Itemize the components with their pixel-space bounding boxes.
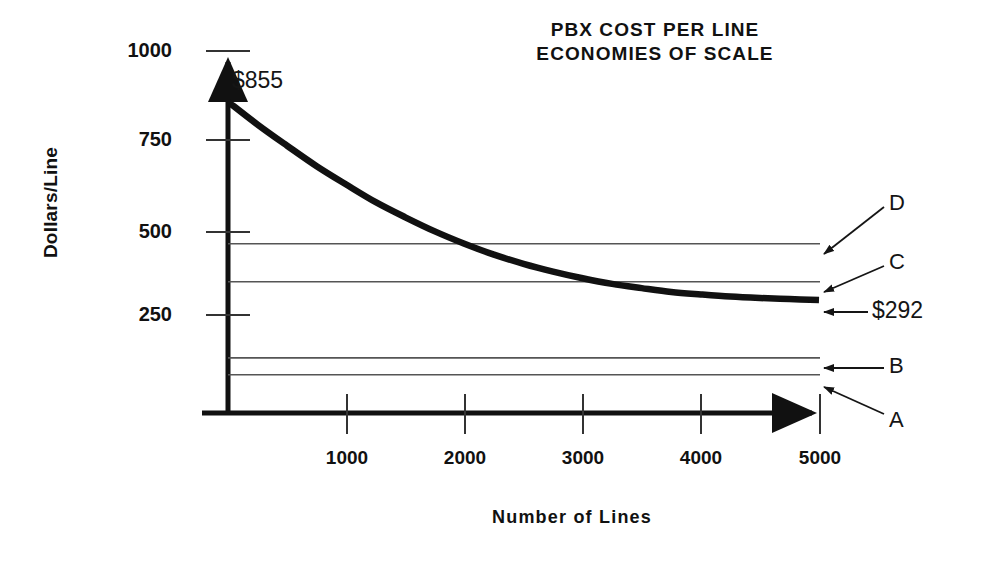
curve-end-value-label: $292 — [872, 299, 923, 322]
x-axis-title: Number of Lines — [422, 508, 722, 526]
annotation-arrow-a — [824, 387, 884, 414]
y-tick-label-1000: 1000 — [86, 40, 172, 60]
chart-title-line-2: ECONOMIES OF SCALE — [536, 43, 773, 64]
annotation-arrow-c — [824, 266, 884, 292]
y-tick-label-250: 250 — [86, 304, 172, 324]
x-tick-label-1000: 1000 — [307, 448, 387, 467]
annotation-arrow-d — [824, 207, 884, 254]
x-tick-label-5000: 5000 — [780, 448, 860, 467]
y-tick-label-500: 500 — [86, 221, 172, 241]
y-tick-label-750: 750 — [86, 129, 172, 149]
reference-line-label-a: A — [889, 409, 904, 431]
chart-plot-area — [0, 0, 982, 572]
y-axis-title: Dollars/Line — [41, 128, 60, 278]
chart-figure: PBX COST PER LINEECONOMIES OF SCALE Doll… — [0, 0, 982, 572]
reference-line-label-c: C — [889, 251, 905, 273]
reference-line-label-d: D — [889, 192, 905, 214]
x-tick-label-4000: 4000 — [661, 448, 741, 467]
x-tick-label-3000: 3000 — [543, 448, 623, 467]
chart-title: PBX COST PER LINEECONOMIES OF SCALE — [455, 18, 855, 67]
chart-title-line-1: PBX COST PER LINE — [551, 19, 760, 40]
x-tick-label-2000: 2000 — [425, 448, 505, 467]
reference-line-label-b: B — [889, 355, 904, 377]
curve-start-value-label: $855 — [232, 69, 283, 92]
cost-curve-smooth — [228, 102, 819, 300]
